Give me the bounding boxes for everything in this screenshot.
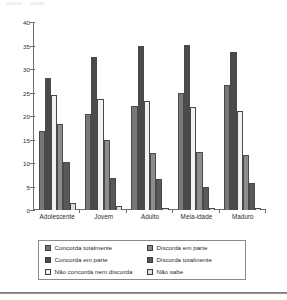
- chart-legend: Concorda totalmenteConcorda em parteNão …: [38, 240, 246, 280]
- legend-item: Discorda em parte: [147, 245, 239, 251]
- legend-swatch-icon: [147, 245, 153, 251]
- legend-swatch-icon: [45, 257, 51, 263]
- legend-item: Concorda totalmente: [45, 245, 147, 251]
- y-axis-tick-label: 20: [23, 113, 30, 120]
- legend-item: Não sabe: [147, 269, 239, 275]
- legend-column-right: Discorda em parteDiscorda totalmenteNão …: [147, 245, 239, 275]
- legend-label: Discorda totalmente: [157, 257, 212, 263]
- legend-swatch-icon: [45, 245, 51, 251]
- bar: [249, 183, 255, 210]
- bar-group: [220, 22, 266, 210]
- legend-swatch-icon: [147, 269, 153, 275]
- x-axis-category-label: Meia-idade: [173, 213, 219, 220]
- legend-label: Concorda totalmente: [55, 245, 113, 251]
- legend-label: Não concorda nem discorda: [55, 269, 133, 275]
- y-axis-tick: [30, 210, 35, 211]
- x-axis-category-labels: AdolescenteJovemAdultoMeia-idadeMaduro: [34, 213, 266, 220]
- legend-item: Discorda totalmente: [147, 257, 239, 263]
- legend-label: Discorda em parte: [157, 245, 208, 251]
- x-axis-category-label: Maduro: [220, 213, 266, 220]
- y-axis-tick-label: 40: [23, 19, 30, 26]
- legend-item: Concorda em parte: [45, 257, 147, 263]
- legend-item: Não concorda nem discorda: [45, 269, 147, 275]
- legend-swatch-icon: [147, 257, 153, 263]
- legend-swatch-icon: [45, 269, 51, 275]
- bar: [209, 208, 215, 210]
- scan-artifact: [6, 2, 22, 5]
- x-axis-category-label: Adolescente: [34, 213, 80, 220]
- y-axis-tick-label: 35: [23, 42, 30, 49]
- x-axis-category-label: Jovem: [80, 213, 126, 220]
- page-divider-rule: [0, 292, 287, 294]
- scan-artifact: [30, 2, 44, 5]
- x-axis-category-label: Adulto: [127, 213, 173, 220]
- legend-label: Não sabe: [157, 269, 184, 275]
- bar: [162, 208, 168, 210]
- bar-group: [34, 22, 80, 210]
- legend-column-left: Concorda totalmenteConcorda em parteNão …: [45, 245, 147, 275]
- legend-label: Concorda em parte: [55, 257, 108, 263]
- y-axis-tick-label: 10: [23, 160, 30, 167]
- bar: [116, 206, 122, 210]
- bar-group: [173, 22, 219, 210]
- bar: [255, 208, 261, 210]
- y-axis-tick-label: 25: [23, 89, 30, 96]
- y-axis-tick-label: 5: [26, 183, 30, 190]
- bar: [203, 187, 209, 211]
- y-axis-tick-label: 15: [23, 136, 30, 143]
- bar: [70, 203, 76, 210]
- bar-chart-figure: 4035302520151050 AdolescenteJovemAdultoM…: [0, 0, 287, 300]
- y-axis-tick-label: 0: [26, 207, 30, 214]
- bar-group: [80, 22, 126, 210]
- bar-groups: [34, 22, 266, 210]
- bar: [156, 179, 162, 210]
- y-axis-tick-label: 30: [23, 66, 30, 73]
- bar-group: [127, 22, 173, 210]
